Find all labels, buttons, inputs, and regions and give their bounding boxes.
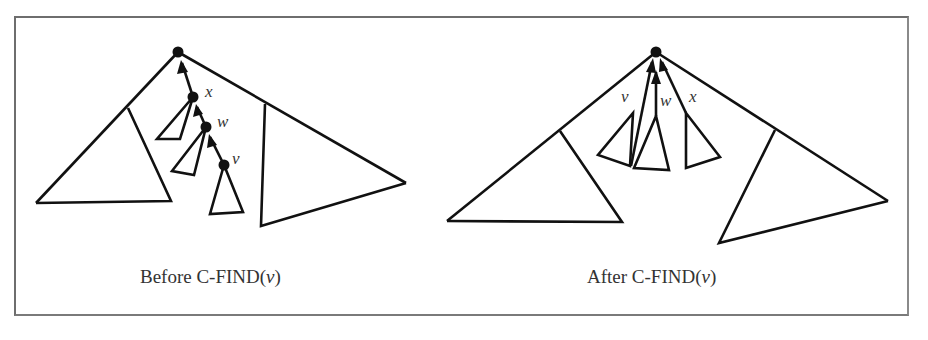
caption-text: After C-FIND( [587,266,702,287]
right-subtree-triangle [261,104,406,226]
root-node [173,47,184,58]
label-v: v [232,149,240,168]
caption-arg: v [702,266,710,287]
label-v: v [621,87,629,106]
label-w: w [660,91,672,110]
label-x: x [204,82,213,101]
caption-suffix: ) [710,266,716,287]
union-find-diagram: x w v v w x [0,0,928,340]
left-subtree-triangle [36,108,171,203]
root-right-edge [656,52,888,201]
root-right-edge [178,52,406,183]
node-x [188,92,199,103]
root-left-edge [447,52,656,221]
node-v [219,160,230,171]
label-w: w [217,112,229,131]
label-x: x [688,87,697,106]
x-subtree-triangle [686,113,720,168]
node-w [201,122,212,133]
left-subtree-triangle [447,131,622,222]
w-subtree-triangle [172,127,206,175]
v-subtree-triangle [210,165,243,214]
caption-text: Before C-FIND( [140,266,266,287]
caption-suffix: ) [275,266,281,287]
caption-arg: v [266,266,274,287]
after-tree [447,52,888,243]
caption-after: After C-FIND(v) [587,266,716,288]
before-arrowheads [177,60,217,148]
caption-before: Before C-FIND(v) [140,266,281,288]
root-left-edge [36,52,178,203]
root-node [651,47,662,58]
before-tree [36,52,406,226]
arrowhead-icon [177,60,188,74]
x-subtree-triangle [157,97,193,139]
v-subtree-triangle [598,113,633,166]
